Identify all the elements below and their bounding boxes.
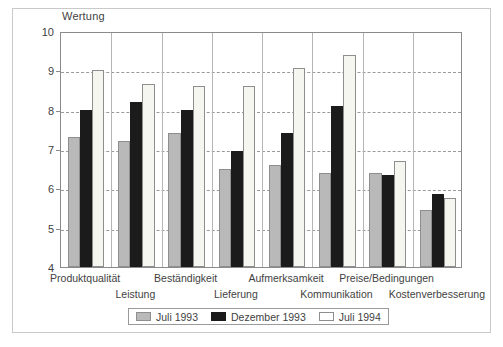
bar xyxy=(142,84,154,267)
plot-area xyxy=(60,32,462,268)
y-axis-tick-labels: 45678910 xyxy=(26,32,54,268)
legend-item[interactable]: Dezember 1993 xyxy=(211,311,306,323)
category-label: Leistung xyxy=(116,288,156,300)
y-axis-tick-label: 8 xyxy=(28,105,54,117)
bar xyxy=(92,70,104,267)
bar xyxy=(168,133,180,267)
group-separator xyxy=(363,33,364,267)
bar xyxy=(80,110,92,267)
category-label: Aufmerksamkeit xyxy=(248,272,323,284)
y-axis-tick-mark xyxy=(56,111,60,112)
bar xyxy=(231,151,243,267)
bar xyxy=(369,173,381,267)
group-separator xyxy=(162,33,163,267)
chart-legend: Juli 1993Dezember 1993Juli 1994 xyxy=(128,308,389,325)
group-separator xyxy=(212,33,213,267)
category-label: Kommunikation xyxy=(300,288,372,300)
category-label: Beständigkeit xyxy=(154,272,217,284)
y-axis-tick-label: 6 xyxy=(28,183,54,195)
bar xyxy=(269,165,281,267)
legend-label: Dezember 1993 xyxy=(231,311,306,323)
legend-item[interactable]: Juli 1994 xyxy=(319,311,381,323)
bar xyxy=(319,173,331,267)
y-axis-tick-label: 7 xyxy=(28,144,54,156)
bar xyxy=(293,68,305,267)
category-label: Produktqualität xyxy=(50,272,120,284)
bar xyxy=(193,86,205,267)
bar xyxy=(219,169,231,267)
bar xyxy=(281,133,293,267)
legend-swatch xyxy=(319,312,334,321)
bars-layer xyxy=(61,33,461,267)
y-axis-tick-mark xyxy=(56,229,60,230)
bar xyxy=(394,161,406,267)
chart-figure: Wertung 45678910 ProduktqualitätLeistung… xyxy=(0,0,503,347)
y-axis-tick-mark xyxy=(56,189,60,190)
group-separator xyxy=(413,33,414,267)
category-label: Kostenverbesserung xyxy=(389,288,485,300)
bar xyxy=(432,194,444,267)
bar xyxy=(382,175,394,267)
bar xyxy=(130,102,142,267)
bar xyxy=(181,110,193,267)
group-separator xyxy=(312,33,313,267)
legend-label: Juli 1994 xyxy=(339,311,381,323)
y-axis-tick-mark xyxy=(56,150,60,151)
bar xyxy=(444,198,456,267)
group-separator xyxy=(111,33,112,267)
legend-label: Juli 1993 xyxy=(156,311,198,323)
group-separator xyxy=(262,33,263,267)
legend-swatch xyxy=(211,312,226,321)
category-label: Preise/Bedingungen xyxy=(339,272,434,284)
bar xyxy=(243,86,255,267)
bar xyxy=(118,141,130,267)
legend-swatch xyxy=(136,312,151,321)
y-axis-title: Wertung xyxy=(62,10,105,22)
legend-item[interactable]: Juli 1993 xyxy=(136,311,198,323)
bar xyxy=(68,137,80,267)
y-axis-tick-label: 10 xyxy=(28,26,54,38)
y-axis-tick-label: 5 xyxy=(28,223,54,235)
y-axis-tick-label: 9 xyxy=(28,65,54,77)
y-axis-tick-mark xyxy=(56,71,60,72)
bar xyxy=(343,55,355,267)
category-label: Lieferung xyxy=(214,288,258,300)
bar xyxy=(331,106,343,267)
bar xyxy=(420,210,432,267)
